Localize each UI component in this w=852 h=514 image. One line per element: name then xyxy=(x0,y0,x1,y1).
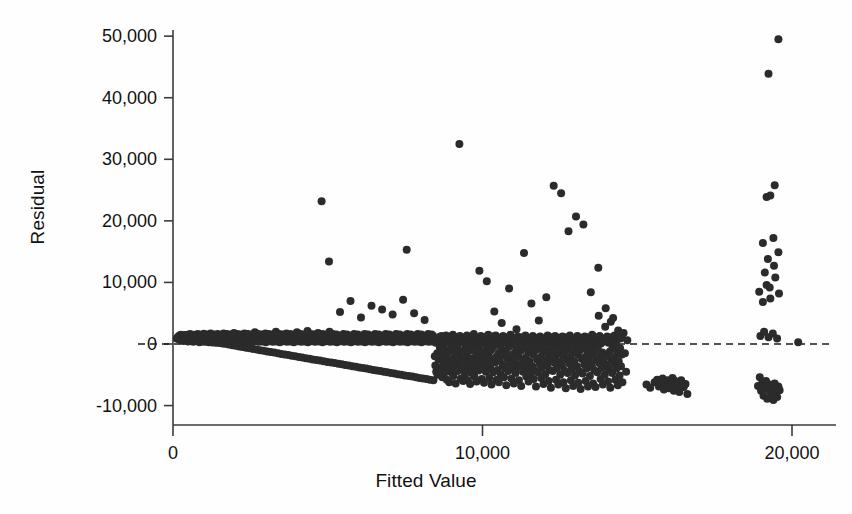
x-tick-marks xyxy=(173,425,792,436)
data-point xyxy=(606,384,614,392)
data-point xyxy=(565,227,573,235)
data-point xyxy=(562,384,570,392)
data-point xyxy=(530,375,538,383)
data-point xyxy=(535,317,543,325)
data-point xyxy=(766,294,774,302)
data-point xyxy=(399,296,407,304)
data-point xyxy=(774,248,782,256)
data-point xyxy=(609,314,617,322)
data-point xyxy=(572,213,580,221)
data-point xyxy=(595,312,603,320)
data-point xyxy=(577,385,585,393)
data-point xyxy=(389,310,397,318)
data-point xyxy=(490,307,498,315)
data-point xyxy=(759,239,767,247)
data-point xyxy=(602,304,610,312)
data-point xyxy=(498,319,506,327)
data-point xyxy=(620,329,628,337)
data-point xyxy=(774,35,782,43)
data-point xyxy=(545,377,553,385)
data-point xyxy=(766,192,774,200)
data-point xyxy=(520,249,528,257)
data-point xyxy=(325,258,333,266)
data-point xyxy=(618,378,626,386)
data-point xyxy=(592,383,600,391)
data-point xyxy=(527,299,535,307)
data-point xyxy=(579,221,587,229)
data-point xyxy=(513,325,521,333)
residual-plot-figure: Residual Fitted Value -10,000010,00020,0… xyxy=(0,0,852,514)
data-point xyxy=(517,382,525,390)
data-point xyxy=(368,302,376,310)
data-point xyxy=(336,308,344,316)
data-point xyxy=(770,262,778,270)
data-point xyxy=(483,277,491,285)
data-point xyxy=(622,368,630,376)
data-point xyxy=(505,285,513,293)
data-point xyxy=(403,246,411,254)
data-point xyxy=(771,274,779,282)
data-point xyxy=(682,380,690,388)
data-point xyxy=(475,267,483,275)
data-point xyxy=(455,140,463,148)
data-point xyxy=(421,316,429,324)
data-point xyxy=(594,264,602,272)
data-point xyxy=(775,290,783,298)
data-point xyxy=(766,283,774,291)
y-tick-marks xyxy=(164,36,173,405)
data-point xyxy=(532,383,540,391)
data-point xyxy=(764,255,772,263)
data-point xyxy=(557,189,565,197)
data-point xyxy=(318,197,326,205)
data-point xyxy=(547,384,555,392)
scatter-plot-canvas xyxy=(0,0,852,514)
data-point xyxy=(755,288,763,296)
data-point xyxy=(794,338,802,346)
data-point xyxy=(765,70,773,78)
data-point xyxy=(550,182,558,190)
data-point xyxy=(347,297,355,305)
data-point xyxy=(761,269,769,277)
data-point xyxy=(683,390,691,398)
data-point xyxy=(621,349,629,357)
data-point xyxy=(623,336,631,344)
data-point-group xyxy=(173,35,803,404)
data-point xyxy=(769,234,777,242)
data-point xyxy=(587,288,595,296)
data-point xyxy=(759,298,767,306)
data-point xyxy=(542,293,550,301)
data-point xyxy=(776,386,784,394)
data-point xyxy=(357,314,365,322)
data-point xyxy=(410,309,418,317)
data-point xyxy=(771,181,779,189)
data-point xyxy=(378,306,386,314)
data-point xyxy=(502,381,510,389)
data-point xyxy=(773,335,781,343)
